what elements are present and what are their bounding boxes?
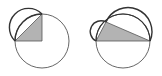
right-figure [90, 8, 152, 68]
shaded-triangle [96, 22, 150, 41]
left-figure [9, 8, 69, 68]
geometry-diagram [0, 0, 162, 76]
